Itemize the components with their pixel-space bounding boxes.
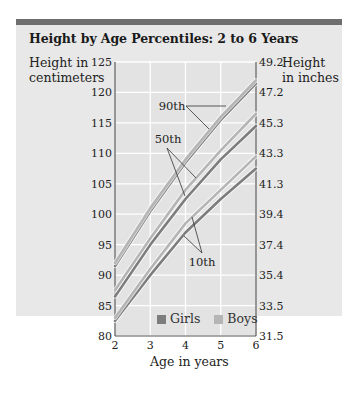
annotation-90th: 90th bbox=[159, 99, 186, 113]
y-tick-left: 80 bbox=[98, 330, 112, 343]
y-tick-right: 43.3 bbox=[259, 147, 284, 160]
y-tick-left: 115 bbox=[91, 117, 112, 130]
plot-area: 8085909510010511011512012531.533.535.437… bbox=[0, 0, 355, 395]
y-tick-left: 90 bbox=[98, 269, 112, 282]
y-tick-right: 39.4 bbox=[259, 208, 284, 221]
legend-item-boys: Boys bbox=[214, 311, 257, 326]
x-tick: 5 bbox=[217, 339, 224, 352]
boys-swatch-icon bbox=[214, 315, 223, 324]
y-tick-left: 85 bbox=[98, 300, 112, 313]
annotation-50th: 50th bbox=[155, 132, 182, 146]
legend: Girls Boys bbox=[157, 311, 268, 326]
y-tick-right: 45.3 bbox=[259, 117, 284, 130]
y-tick-left: 100 bbox=[91, 208, 112, 221]
legend-boys-label: Boys bbox=[227, 311, 257, 326]
y-tick-right: 31.5 bbox=[259, 330, 284, 343]
girls-swatch-icon bbox=[157, 315, 166, 324]
y-tick-left: 125 bbox=[91, 56, 112, 69]
y-tick-left: 95 bbox=[98, 239, 112, 252]
legend-item-girls: Girls bbox=[157, 311, 200, 326]
x-tick: 6 bbox=[253, 339, 260, 352]
x-tick: 3 bbox=[147, 339, 154, 352]
y-tick-right: 41.3 bbox=[259, 178, 284, 191]
y-tick-left: 120 bbox=[91, 86, 112, 99]
x-axis-label: Age in years bbox=[150, 354, 229, 369]
y-tick-right: 49.2 bbox=[259, 56, 284, 69]
annotation-10th: 10th bbox=[189, 255, 216, 269]
y-tick-right: 35.4 bbox=[259, 269, 284, 282]
x-tick: 2 bbox=[112, 339, 119, 352]
y-tick-left: 105 bbox=[91, 178, 112, 191]
legend-girls-label: Girls bbox=[170, 311, 200, 326]
x-tick: 4 bbox=[182, 339, 189, 352]
y-tick-right: 37.4 bbox=[259, 239, 284, 252]
y-tick-left: 110 bbox=[91, 147, 112, 160]
y-tick-right: 47.2 bbox=[259, 86, 284, 99]
